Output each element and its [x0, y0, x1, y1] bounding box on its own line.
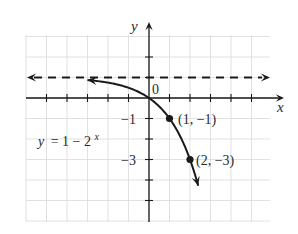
origin-label: 0 [152, 82, 159, 97]
svg-text:y = 1 − 2 x: y = 1 − 2 x [36, 131, 100, 149]
equation-label: y = 1 − 2 x [36, 131, 100, 149]
data-point [186, 156, 193, 163]
y-tick-label-neg1: −1 [121, 112, 136, 127]
exponential-curve [88, 77, 200, 186]
grid [26, 35, 270, 222]
x-axis-label: x [276, 99, 284, 115]
y-axis-label: y [129, 18, 138, 34]
equation-lhs: y [36, 134, 45, 149]
point-label-2: (2, −3) [196, 153, 235, 169]
y-tick-label-neg3: −3 [121, 153, 136, 168]
equation-rhs: = 1 − 2 [51, 134, 91, 149]
data-point [166, 115, 173, 122]
axes [26, 22, 284, 222]
point-label-1: (1, −1) [178, 112, 217, 128]
graph: y x 0 −1 −3 (1, −1) (2, −3) y = 1 − 2 x [0, 0, 298, 234]
equation-exponent: x [94, 131, 100, 142]
